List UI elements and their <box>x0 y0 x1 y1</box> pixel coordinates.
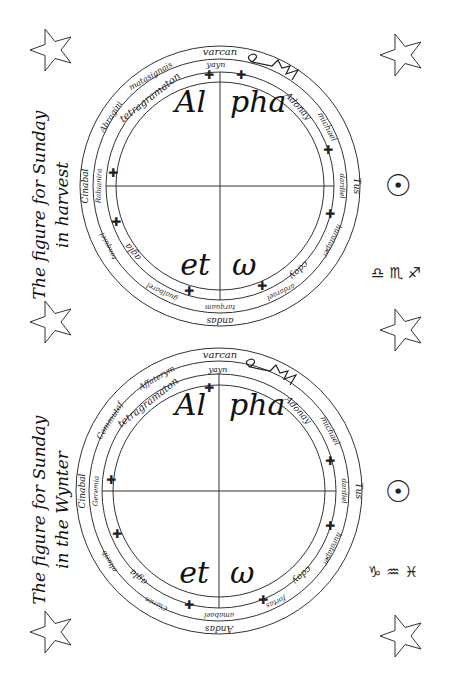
sun-icon: ☉ <box>385 474 412 509</box>
middle-label: tonquiel <box>98 231 118 261</box>
figure-title-line1: The figure for Sunday <box>29 110 49 299</box>
cross-icon: ✚ <box>112 527 122 541</box>
cross-icon: ✚ <box>204 381 214 395</box>
cross-icon: ✚ <box>257 279 267 293</box>
middle-label: yayn <box>208 365 228 374</box>
middle-label: tarquam <box>205 303 235 311</box>
cross-icon: ✚ <box>236 68 246 82</box>
outer-label-left: Cinabal <box>77 473 87 508</box>
quadrant-word: pha <box>230 84 286 119</box>
middle-label: hurataper <box>320 531 343 567</box>
middle-label: dardiel <box>340 478 348 503</box>
quadrant-word: pha <box>229 387 285 422</box>
sunday-figures-diagram: The figure for Sunday in harvest varcan … <box>0 0 454 680</box>
figure-title-line1: The figure for Sunday <box>29 415 49 604</box>
star-icon <box>30 29 71 71</box>
outer-label-bottom: andas <box>206 316 233 326</box>
figure-title-line2: in the Wynter <box>52 450 72 569</box>
cross-icon: ✚ <box>323 143 333 157</box>
star-icon <box>30 301 71 343</box>
zodiac-icons: ♎ ♏ ♐ <box>371 264 421 282</box>
middle-label: michael <box>316 111 339 144</box>
quadrant-word: ω <box>230 555 254 590</box>
cross-icon: ✚ <box>184 598 194 612</box>
middle-label: hurataper <box>320 223 343 259</box>
figure-title-line2: in harvest <box>52 162 72 248</box>
quadrant-word: et <box>179 555 210 590</box>
cross-icon: ✚ <box>325 207 335 221</box>
sun-icon: ☉ <box>385 168 412 203</box>
quadrant-word: Al <box>172 84 206 119</box>
cross-icon: ✚ <box>258 593 268 607</box>
middle-label: amabael <box>204 611 234 619</box>
outer-label-top: varcan <box>203 46 237 57</box>
figure-wynter: The figure for Sunday in the Wynter varc… <box>29 348 418 634</box>
outer-label-right: Tus <box>354 483 364 500</box>
outer-label-right: Tus <box>352 178 362 195</box>
star-icon <box>380 309 421 351</box>
outer-label-top: varcan <box>203 349 237 360</box>
quadrant-word: et <box>180 247 211 282</box>
middle-label: michael <box>319 415 342 448</box>
cross-icon: ✚ <box>325 454 335 468</box>
star-icon <box>380 34 421 76</box>
cross-icon: ✚ <box>184 284 194 298</box>
middle-label: ardarael <box>266 282 297 302</box>
star-icon <box>380 615 421 657</box>
inner-label: cdoy <box>290 564 313 586</box>
sigil-icon <box>248 54 298 80</box>
cross-icon: ✚ <box>111 215 121 229</box>
middle-label: altarib <box>100 548 119 573</box>
cross-icon: ✚ <box>106 473 116 487</box>
figure-harvest: The figure for Sunday in harvest varcan … <box>29 46 421 326</box>
inner-label: agla <box>127 567 148 587</box>
star-icon <box>30 611 71 653</box>
middle-label: Ciaran <box>143 595 168 613</box>
outer-label-bottom: Andas <box>205 624 234 634</box>
quadrant-word: Al <box>172 387 206 422</box>
cross-icon: ✚ <box>108 166 118 180</box>
cross-icon: ✚ <box>325 519 335 533</box>
zodiac-icons: ♑ ♒ ♓ <box>368 563 418 581</box>
cross-icon: ✚ <box>204 68 214 82</box>
quadrant-word: ω <box>232 247 256 282</box>
middle-label: dardiel <box>338 173 346 198</box>
middle-label: Rabianira <box>94 168 103 204</box>
outer-label-left: Cinabal <box>80 168 90 203</box>
middle-label: Geremia <box>91 476 100 507</box>
